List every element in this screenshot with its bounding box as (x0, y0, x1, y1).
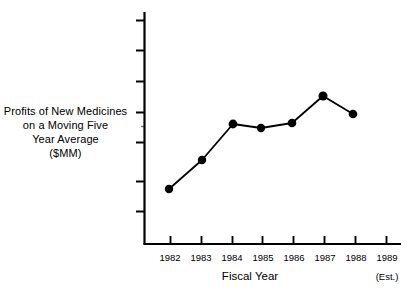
y-axis-label: Profits of New Medicines on a Moving Fiv… (0, 104, 131, 160)
data-point-1985 (257, 124, 265, 132)
y-axis-label-line-2: on a Moving Five (0, 118, 131, 132)
data-point-1982 (165, 185, 173, 193)
x-axis-title: Fiscal Year (144, 270, 356, 282)
data-markers (165, 92, 358, 194)
x-tick-label-1989: 1989 (367, 252, 407, 263)
y-axis-label-line-1: Profits of New Medicines (0, 104, 131, 118)
data-point-1988 (349, 110, 358, 119)
x-tick-sublabel-1989-est: (Est.) (367, 271, 407, 282)
data-point-1986 (288, 119, 297, 128)
data-point-1983 (198, 156, 206, 164)
data-point-1984 (229, 120, 238, 129)
data-point-1987 (319, 92, 328, 101)
data-line-series-1 (169, 96, 353, 189)
y-axis-label-line-3: Year Average (0, 132, 131, 146)
chart-figure: Profits of New Medicines on a Moving Fiv… (0, 0, 415, 292)
y-axis-label-line-4: ($MM) (0, 146, 131, 160)
